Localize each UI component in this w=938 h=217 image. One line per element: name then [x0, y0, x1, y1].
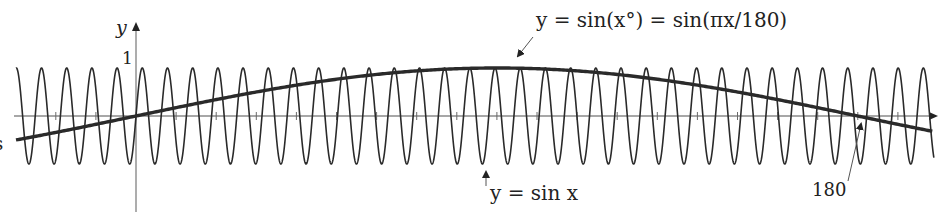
- annotation-180: 180: [812, 179, 846, 200]
- y-axis-label: y: [115, 16, 127, 38]
- annotation-180-arrow-icon: [848, 124, 861, 181]
- annotation-sin-degrees: y = sin(x°) = sin(πx/180): [535, 8, 787, 32]
- left-cut-label: s: [0, 133, 3, 154]
- annotation-sin-degrees-arrow-icon: [518, 37, 533, 56]
- y-tick-label-1: 1: [122, 48, 133, 68]
- sine-comparison-chart: y 1 s y = sin(x°) = sin(πx/180) y = sin …: [0, 0, 938, 217]
- y-axis-arrow-icon: [132, 22, 140, 31]
- annotation-sin-x: y = sin x: [489, 181, 579, 205]
